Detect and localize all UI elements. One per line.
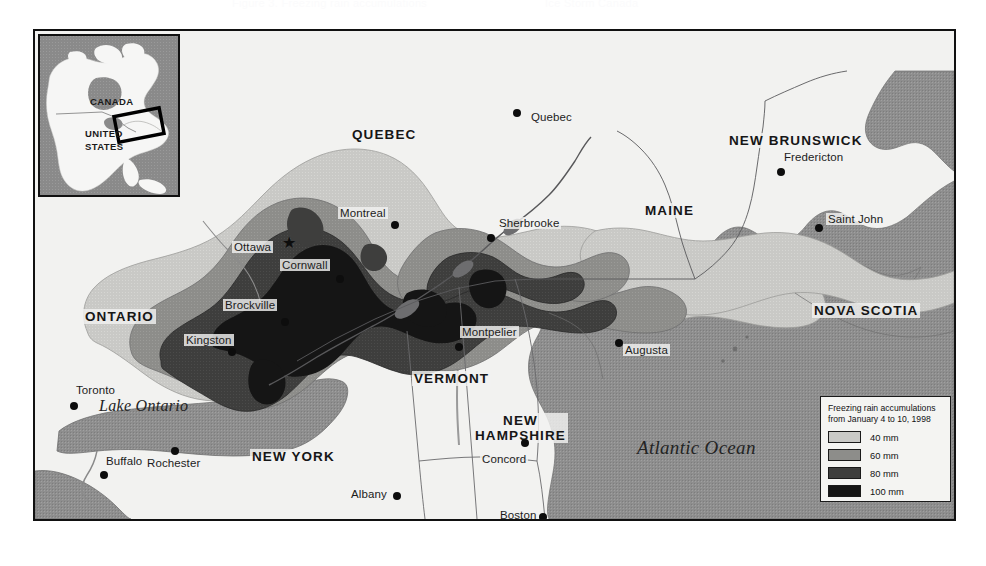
legend-row-60mm: 60 mm	[828, 447, 943, 463]
legend-label-60mm: 60 mm	[870, 450, 899, 461]
city-label-ottawa: Ottawa	[232, 241, 273, 253]
city-label-concord: Concord	[480, 453, 528, 465]
region-label-vermont: VERMONT	[412, 371, 491, 386]
city-label-albany: Albany	[349, 488, 389, 500]
city-marker-boston[interactable]	[539, 513, 547, 519]
city-marker-saint-john[interactable]	[815, 224, 823, 232]
ghost-header-right: Ice Storm Canada	[545, 0, 638, 9]
city-label-augusta: Augusta	[623, 344, 670, 356]
legend-row-100mm: 100 mm	[828, 483, 943, 499]
city-label-kingston: Kingston	[184, 334, 234, 346]
water-label-lake-ontario: Lake Ontario	[97, 397, 190, 415]
city-marker-quebec-city[interactable]	[513, 109, 521, 117]
city-marker-kingston[interactable]	[228, 348, 236, 356]
legend-swatch-40mm	[828, 431, 861, 443]
city-label-montreal: Montreal	[338, 207, 388, 219]
legend-label-100mm: 100 mm	[870, 486, 904, 497]
region-label-maine: MAINE	[643, 203, 696, 218]
city-label-cornwall: Cornwall	[280, 259, 330, 271]
clipped-header-strip: Figure 3. Freezing rain accumulations Ic…	[0, 0, 986, 12]
city-label-rochester: Rochester	[145, 457, 202, 469]
map-canvas: QUEBEC MAINE NEW BRUNSWICK NOVA SCOTIA O…	[35, 31, 954, 519]
city-marker-concord[interactable]	[521, 439, 529, 447]
legend-row-40mm: 40 mm	[828, 429, 943, 445]
map-frame: QUEBEC MAINE NEW BRUNSWICK NOVA SCOTIA O…	[33, 29, 956, 521]
city-marker-montpelier[interactable]	[455, 343, 463, 351]
city-label-fredericton: Fredericton	[782, 151, 845, 163]
legend-title: Freezing rain accumulations from January…	[828, 403, 943, 424]
legend-swatch-80mm	[828, 467, 861, 479]
city-marker-rochester[interactable]	[171, 447, 179, 455]
city-marker-ottawa-capital-star[interactable]: ★	[282, 235, 296, 251]
city-marker-albany[interactable]	[393, 492, 401, 500]
legend-swatch-60mm	[828, 449, 861, 461]
inset-label-canada: CANADA	[90, 96, 134, 107]
region-label-nova-scotia: NOVA SCOTIA	[812, 303, 920, 318]
region-label-new-brunswick: NEW BRUNSWICK	[727, 133, 865, 148]
legend-label-80mm: 80 mm	[870, 468, 899, 479]
legend-label-40mm: 40 mm	[870, 432, 899, 443]
city-label-sherbrooke: Sherbrooke	[497, 217, 561, 229]
region-label-new-hampshire: NEWHAMPSHIRE	[473, 413, 568, 443]
legend-box: Freezing rain accumulations from January…	[820, 396, 951, 502]
legend-title-line1: Freezing rain accumulations	[828, 403, 943, 414]
city-label-saint-john: Saint John	[826, 213, 885, 225]
nh-line1: NEW	[503, 413, 538, 428]
region-label-quebec: QUEBEC	[350, 127, 418, 142]
legend-swatch-100mm	[828, 485, 861, 497]
city-marker-cornwall[interactable]	[336, 275, 344, 283]
city-marker-sherbrooke[interactable]	[487, 234, 495, 242]
map-page: Figure 3. Freezing rain accumulations Ic…	[0, 0, 986, 566]
city-marker-buffalo[interactable]	[100, 471, 108, 479]
city-marker-brockville[interactable]	[281, 318, 289, 326]
city-label-boston: Boston	[498, 509, 538, 519]
city-label-quebec-city: Quebec	[529, 111, 574, 123]
city-marker-montreal[interactable]	[391, 221, 399, 229]
inset-label-states: STATES	[85, 141, 123, 152]
inset-locator-map[interactable]: CANADA UNITED STATES	[38, 34, 180, 197]
ghost-header-left: Figure 3. Freezing rain accumulations	[232, 0, 427, 9]
inset-label-united: UNITED	[85, 128, 123, 139]
city-label-buffalo: Buffalo	[104, 455, 144, 467]
city-label-montpelier: Montpelier	[460, 326, 519, 338]
city-marker-toronto[interactable]	[70, 402, 78, 410]
city-label-toronto: Toronto	[74, 384, 117, 396]
region-label-new-york: NEW YORK	[250, 449, 337, 464]
city-marker-augusta[interactable]	[615, 339, 623, 347]
water-label-atlantic-ocean: Atlantic Ocean	[635, 437, 758, 459]
inset-geometry	[40, 36, 178, 195]
city-marker-fredericton[interactable]	[777, 168, 785, 176]
legend-row-80mm: 80 mm	[828, 465, 943, 481]
legend-title-line2: from January 4 to 10, 1998	[828, 414, 943, 425]
city-label-brockville: Brockville	[223, 299, 277, 311]
region-label-ontario: ONTARIO	[83, 309, 156, 324]
